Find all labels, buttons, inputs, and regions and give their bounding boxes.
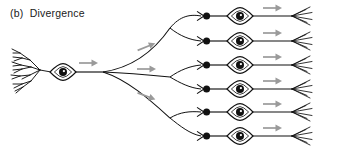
target-neuron-4 bbox=[197, 78, 312, 98]
target-neuron-1 bbox=[197, 5, 312, 25]
target-neuron-2 bbox=[197, 30, 312, 50]
divergence-diagram bbox=[0, 0, 338, 154]
target-neuron-6 bbox=[197, 125, 312, 145]
target-neuron-3 bbox=[197, 54, 312, 74]
branch-flow-arrow-middle bbox=[137, 66, 156, 73]
secondary-branches bbox=[170, 15, 201, 136]
figure-caption: (b) Divergence bbox=[10, 7, 85, 19]
primary-branch-upper bbox=[103, 28, 170, 72]
target-neuron-5 bbox=[197, 101, 312, 121]
primary-branch-lower bbox=[103, 72, 170, 118]
source-axon-flow-arrow bbox=[79, 60, 98, 67]
source-neuron-soma bbox=[50, 64, 76, 81]
divergence-figure: (b) Divergence bbox=[0, 0, 338, 154]
source-neuron-dendrites bbox=[11, 49, 51, 93]
